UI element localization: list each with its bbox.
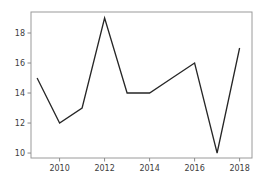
x-tick-label: 2010 — [49, 164, 69, 173]
y-tick-label: 16 — [15, 59, 25, 68]
line-chart: 20102012201420162018 1012141618 — [0, 0, 261, 186]
x-tick-label: 2018 — [229, 164, 249, 173]
y-axis-ticks: 1012141618 — [15, 29, 31, 158]
figure: 20102012201420162018 1012141618 — [0, 0, 261, 186]
plot-area — [31, 12, 252, 158]
x-tick-label: 2012 — [94, 164, 114, 173]
x-tick-label: 2016 — [184, 164, 204, 173]
data-line — [37, 18, 240, 153]
x-axis-ticks: 20102012201420162018 — [49, 158, 249, 173]
y-tick-label: 18 — [15, 29, 25, 38]
y-tick-label: 12 — [15, 119, 25, 128]
y-tick-label: 14 — [15, 89, 25, 98]
y-tick-label: 10 — [15, 149, 25, 158]
x-tick-label: 2014 — [139, 164, 159, 173]
